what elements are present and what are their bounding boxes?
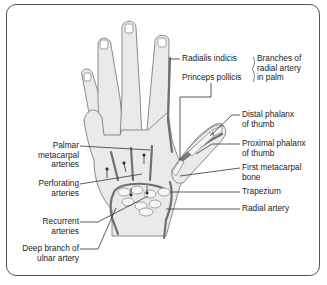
label-palmar-metacarpal-arteries: Palmar metacarpal arteries — [38, 141, 79, 170]
label-recurrent-arteries: Recurrent arteries — [43, 217, 79, 236]
label-line: in palm — [257, 73, 301, 83]
label-radial-artery: Radial artery — [242, 204, 289, 214]
label-line: Trapezium — [242, 187, 281, 197]
label-trapezium: Trapezium — [242, 187, 281, 197]
label-line: ulnar artery — [22, 254, 79, 264]
label-first-metacarpal: First metacarpal bone — [242, 163, 301, 182]
label-line: arteries — [38, 189, 79, 199]
label-branches-radial-artery-palm: Branches of radial artery in palm — [257, 54, 301, 83]
label-perforating-arteries: Perforating arteries — [38, 179, 79, 198]
label-line: bone — [242, 173, 301, 183]
label-line: Princeps pollicis — [182, 73, 241, 83]
label-line: Radial artery — [242, 204, 289, 214]
label-line: of thumb — [242, 149, 306, 159]
label-line: arteries — [43, 227, 79, 237]
label-radialis-indicis: Radialis indicis — [182, 54, 237, 64]
label-line: of thumb — [242, 120, 294, 130]
label-princeps-pollicis: Princeps pollicis — [182, 73, 241, 83]
label-distal-phalanx: Distal phalanx of thumb — [242, 110, 294, 129]
group-bracket — [252, 57, 254, 82]
label-proximal-phalanx: Proximal phalanx of thumb — [242, 139, 306, 158]
label-line: Radialis indicis — [182, 54, 237, 64]
label-deep-branch-ulnar-artery: Deep branch of ulnar artery — [22, 244, 79, 263]
thumb-bones — [172, 126, 222, 176]
label-line: arteries — [38, 160, 79, 170]
